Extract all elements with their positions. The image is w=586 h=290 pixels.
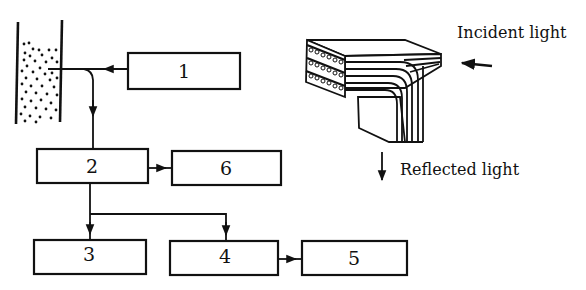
line-2-to-4 bbox=[90, 214, 226, 241]
block-4-label: 4 bbox=[219, 245, 231, 267]
incident-light-arrow bbox=[462, 63, 492, 66]
block-4: 4 bbox=[170, 241, 278, 275]
block-5: 5 bbox=[302, 241, 407, 275]
reflected-light-label: Reflected light bbox=[400, 160, 520, 179]
block-1-label: 1 bbox=[178, 60, 190, 82]
particle-dots bbox=[20, 42, 59, 124]
block-2: 2 bbox=[37, 149, 148, 183]
fiber-bundle-illustration bbox=[306, 40, 441, 142]
block-3: 3 bbox=[34, 240, 146, 274]
block-5-label: 5 bbox=[348, 247, 360, 269]
block-6-label: 6 bbox=[220, 157, 232, 179]
incident-light-label: Incident light bbox=[457, 23, 567, 42]
fiber-branch-to-2 bbox=[84, 69, 93, 149]
block-2-label: 2 bbox=[86, 155, 98, 177]
block-3-label: 3 bbox=[83, 243, 95, 265]
optical-fiber-block-diagram: 1 2 6 3 4 5 bbox=[0, 0, 586, 290]
block-1: 1 bbox=[128, 53, 240, 89]
block-6: 6 bbox=[172, 151, 281, 185]
container-left-wall bbox=[16, 22, 18, 124]
container-right-wall bbox=[60, 20, 62, 122]
sample-container bbox=[16, 20, 62, 124]
